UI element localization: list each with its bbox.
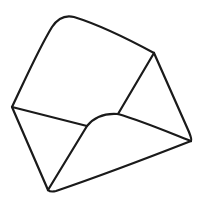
envelope-top-flap (12, 16, 154, 107)
envelope-illustration: open envelope line drawing (0, 0, 206, 206)
envelope-left-fold (12, 107, 87, 126)
envelope-inner-diagonal (118, 53, 154, 114)
envelope-front-pocket (48, 114, 191, 190)
envelope-bottom-edge (48, 141, 191, 191)
envelope-left-edge (12, 107, 48, 190)
envelope-open-icon (0, 0, 206, 206)
